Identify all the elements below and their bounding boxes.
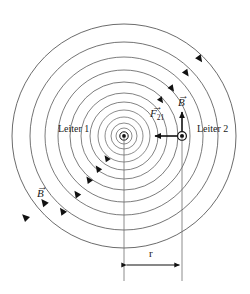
conductor-2-label: Leiter 2 <box>197 124 228 134</box>
field-arrowhead <box>20 212 30 222</box>
field-arrowhead <box>93 164 102 173</box>
force-vector-glyph-group: F21 <box>150 108 164 123</box>
physics-field-diagram <box>0 0 250 294</box>
force-vector-subscript: 21 <box>157 113 165 122</box>
force-vector-symbol: F <box>150 107 157 119</box>
field-arrowhead <box>182 69 191 79</box>
force-vector-label: → F21 <box>150 104 164 123</box>
field-arrowhead <box>167 84 176 93</box>
conductor-1-label: Leiter 1 <box>58 124 89 134</box>
figure-caption <box>0 280 250 294</box>
b-field-right-label: → B <box>178 93 188 108</box>
distance-label: r <box>149 248 153 259</box>
field-direction-arrowheads-group <box>20 54 205 222</box>
field-arrowhead <box>195 54 205 64</box>
b-field-left-label: → B <box>37 184 47 199</box>
